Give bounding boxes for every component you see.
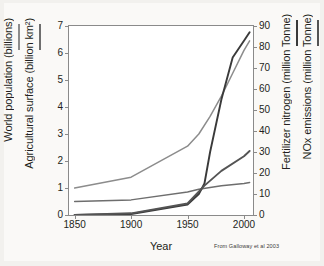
y-right-tick-label: 40 (259, 126, 275, 136)
x-tickmark (75, 216, 76, 219)
y-left-tick-label: 3 (49, 129, 63, 139)
left-legend-population: World population (billions) (3, 18, 14, 218)
y-right-tick-label: 0 (259, 210, 275, 220)
y-right-tickmark (254, 68, 257, 69)
left-axis-title-population: World population (billions) (3, 18, 14, 142)
y-right-tickmark (254, 194, 257, 195)
right-axis-title-fertilizer-nitrogen: Fertilizer nitrogen (million Tonne) (281, 14, 292, 170)
x-tick-label: 1900 (116, 220, 146, 230)
source-citation: From Galloway et al 2003 (214, 243, 279, 249)
series-line (75, 183, 250, 202)
y-right-tick-label: 30 (259, 147, 275, 157)
left-axis-title-agricultural-surface: Agricultural surface (billion km²) (24, 18, 35, 169)
x-tick-label: 1850 (60, 220, 90, 230)
y-right-tickmark (254, 110, 257, 111)
y-right-tickmark (254, 215, 257, 216)
swatch-wrap-fertilizer (293, 14, 301, 224)
y-right-tick-label: 90 (259, 21, 275, 31)
left-axis-legend: World population (billions) Agricultural… (2, 18, 44, 218)
y-right-tick-label: 20 (259, 168, 275, 178)
left-legend-agriculture: Agricultural surface (billion km²) (24, 18, 35, 218)
swatch-wrap-agriculture (36, 18, 44, 218)
right-legend-nox: NOx emissions (million Tonne) (302, 14, 313, 224)
y-left-tick-label: 1 (49, 183, 63, 193)
plot-area (68, 25, 254, 216)
y-left-tick-label: 0 (49, 210, 63, 220)
y-right-tick-label: 50 (259, 105, 275, 115)
series-line (75, 32, 250, 215)
y-right-tickmark (254, 152, 257, 153)
y-right-tickmark (254, 26, 257, 27)
right-legend-fertilizer: Fertilizer nitrogen (million Tonne) (281, 14, 292, 224)
right-axis-legend: Fertilizer nitrogen (million Tonne) NOx … (280, 14, 322, 224)
y-right-tickmark (254, 47, 257, 48)
y-right-tick-label: 60 (259, 84, 275, 94)
y-left-tick-label: 4 (49, 102, 63, 112)
x-tickmark (131, 216, 132, 219)
y-right-tick-label: 10 (259, 189, 275, 199)
swatch-wrap-population (15, 18, 23, 218)
y-left-tick-label: 7 (49, 21, 63, 31)
legend-swatch-world-population (18, 24, 20, 50)
y-right-tickmark (254, 89, 257, 90)
x-tick-label: 1950 (173, 220, 203, 230)
y-left-tick-label: 5 (49, 75, 63, 85)
y-right-tickmark (254, 131, 257, 132)
y-right-tick-label: 80 (259, 42, 275, 52)
swatch-wrap-nox (314, 14, 322, 224)
x-tickmark (244, 216, 245, 219)
figure-root: World population (billions) Agricultural… (0, 0, 324, 266)
y-right-tickmark (254, 173, 257, 174)
chart-lines (69, 26, 253, 215)
right-axis-title-nox-emissions: NOx emissions (million Tonne) (302, 14, 313, 159)
x-tick-label: 2000 (229, 220, 259, 230)
legend-swatch-agricultural-surface (39, 24, 41, 50)
legend-swatch-fertilizer-nitrogen (296, 20, 298, 46)
x-tickmark (188, 216, 189, 219)
y-left-tick-label: 2 (49, 156, 63, 166)
y-right-tick-label: 70 (259, 63, 275, 73)
y-left-tick-label: 6 (49, 48, 63, 58)
legend-swatch-nox-emissions (317, 20, 319, 46)
series-line (75, 41, 250, 188)
